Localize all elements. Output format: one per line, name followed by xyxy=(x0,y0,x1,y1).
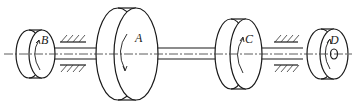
shaft xyxy=(41,48,304,59)
label-d: D xyxy=(329,33,339,47)
shaft-disk-diagram: B A C D xyxy=(0,0,354,108)
bearing-right xyxy=(274,35,299,72)
label-b: B xyxy=(41,33,49,47)
bearing-left xyxy=(60,35,86,72)
label-c: C xyxy=(245,32,254,46)
label-a: A xyxy=(134,31,143,45)
